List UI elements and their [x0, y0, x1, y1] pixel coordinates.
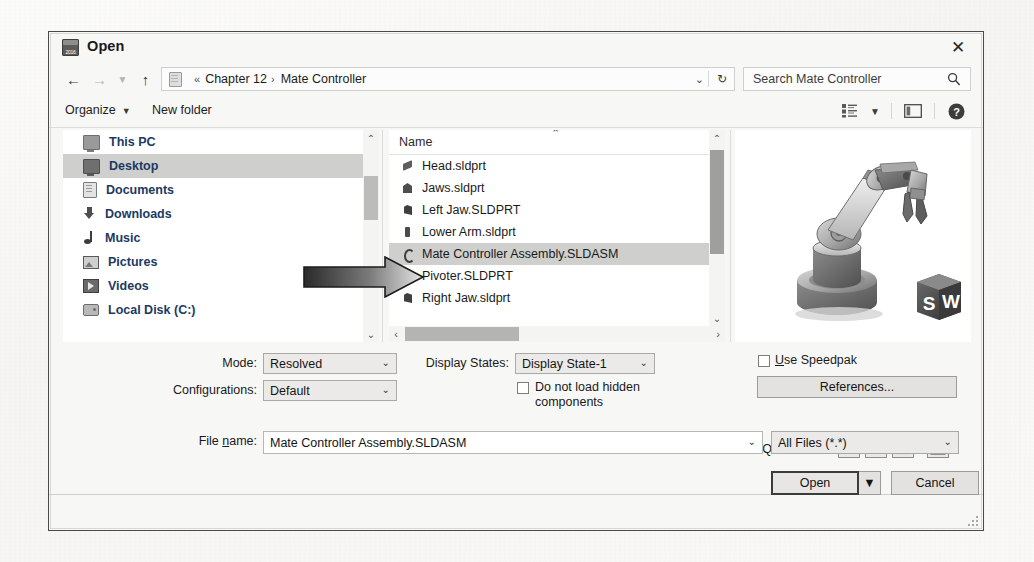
scroll-down-icon[interactable]: ⌄ [709, 310, 725, 326]
sidebar-item-label: Documents [106, 183, 174, 197]
table-row[interactable]: Right Jaw.sldprt [389, 287, 709, 309]
display-states-value: Display State-1 [522, 357, 607, 371]
sidebar-item-downloads[interactable]: Downloads [63, 202, 363, 226]
configurations-label: Configurations: [141, 383, 257, 397]
navigation-pane[interactable]: This PCDesktopDocumentsDownloadsMusicPic… [63, 130, 363, 342]
open-file-dialog: 2016 Open ✕ ← → ▼ ↑ « Chapter 12 › Mate … [48, 31, 984, 531]
arrow-right-icon[interactable]: → [89, 69, 110, 90]
this-pc-icon [83, 135, 100, 150]
scroll-left-icon[interactable]: ‹ [389, 326, 403, 342]
breadcrumb-item-1[interactable]: Mate Controller [281, 72, 366, 86]
open-split-dropdown[interactable]: ▼ [859, 471, 881, 495]
file-list-horizontal-scrollbar[interactable]: ‹ › [389, 326, 725, 342]
column-header-label: Name [399, 135, 432, 149]
do-not-load-hidden-checkbox[interactable] [517, 382, 529, 394]
footer-area: File name: Mate Controller Assembly.SLDA… [49, 468, 983, 530]
display-states-select[interactable]: Display State-1 ⌄ [515, 353, 655, 374]
references-button[interactable]: References... [757, 376, 957, 398]
sidebar-item-this-pc[interactable]: This PC [63, 130, 363, 154]
sort-ascending-icon: ⌃ [551, 130, 560, 140]
file-name-cell: Head.sldprt [422, 159, 486, 173]
sw-part-icon [401, 203, 414, 217]
sw-part-icon [401, 181, 414, 195]
table-row[interactable]: Mate Controller Assembly.SLDASM [389, 243, 709, 265]
table-row[interactable]: Lower Arm.sldprt [389, 221, 709, 243]
chevron-down-icon: ⌄ [944, 436, 952, 447]
view-chevron-down-icon[interactable]: ▼ [865, 100, 885, 122]
close-icon[interactable]: ✕ [941, 36, 975, 58]
table-row[interactable]: Head.sldprt [389, 155, 709, 177]
file-name-label: File name: [159, 434, 257, 448]
organize-label: Organize [65, 103, 116, 117]
file-list-pane[interactable]: Name ⌃ Head.sldprtJaws.sldprtLeft Jaw.SL… [389, 130, 709, 342]
resize-grip-icon[interactable] [968, 516, 978, 526]
help-icon[interactable]: ? [941, 100, 971, 122]
file-type-select[interactable]: All Files (*.*) ⌄ [771, 431, 959, 454]
scroll-up-icon[interactable]: ⌃ [363, 130, 379, 146]
arrow-up-icon[interactable]: ↑ [135, 69, 156, 90]
breadcrumb[interactable]: « Chapter 12 › Mate Controller ⌄ ↻ [161, 67, 735, 91]
arrow-left-icon[interactable]: ← [63, 69, 84, 90]
downloads-icon [83, 207, 96, 221]
solidworks-cube-badge: S W [917, 274, 961, 320]
table-row[interactable]: Pivoter.SLDPRT [389, 265, 709, 287]
column-header-name[interactable]: Name ⌃ [389, 130, 709, 155]
documents-icon [83, 182, 97, 198]
pictures-icon [83, 256, 99, 269]
refresh-icon[interactable]: ↻ [717, 72, 727, 86]
file-name-cell: Lower Arm.sldprt [422, 225, 516, 239]
breadcrumb-item-0[interactable]: Chapter 12 [205, 72, 267, 86]
file-name-cell: Left Jaw.SLDPRT [422, 203, 520, 217]
file-name-value: Mate Controller Assembly.SLDASM [270, 436, 466, 450]
sidebar-item-music[interactable]: Music [63, 226, 363, 250]
options-area: Mode: Resolved ⌄ Configurations: Default… [49, 350, 983, 480]
table-row[interactable]: Left Jaw.SLDPRT [389, 199, 709, 221]
scroll-down-icon[interactable]: ⌄ [363, 326, 379, 342]
file-rows-container: Head.sldprtJaws.sldprtLeft Jaw.SLDPRTLow… [389, 155, 709, 309]
videos-icon [83, 279, 99, 293]
preview-pane: S W [735, 130, 971, 342]
file-name-input[interactable]: Mate Controller Assembly.SLDASM ⌄ [263, 431, 763, 454]
navigation-pane-scrollbar[interactable]: ⌃ ⌄ [363, 130, 379, 342]
organize-button[interactable]: Organize▼ [65, 103, 131, 117]
icon-year-label: 2016 [62, 49, 79, 55]
svg-text:W: W [942, 291, 960, 312]
mode-label: Mode: [159, 356, 257, 370]
scrollbar-thumb[interactable] [405, 327, 519, 341]
configurations-select[interactable]: Default ⌄ [263, 380, 397, 401]
page-title: Open [87, 38, 124, 54]
sw-part-icon [401, 225, 414, 239]
breadcrumb-separator: › [271, 73, 275, 85]
file-list-vertical-scrollbar[interactable]: ⌃ ⌄ [709, 130, 725, 326]
chevron-down-icon[interactable]: ⌄ [748, 436, 756, 447]
file-name-cell: Pivoter.SLDPRT [422, 269, 513, 283]
preview-pane-icon[interactable] [898, 100, 928, 122]
cancel-button[interactable]: Cancel [891, 471, 979, 495]
scrollbar-thumb[interactable] [710, 150, 724, 254]
divider [891, 103, 892, 119]
divider [934, 103, 935, 119]
view-list-icon[interactable] [835, 100, 865, 122]
sidebar-item-label: Desktop [109, 159, 158, 173]
sidebar-item-local-disk-c[interactable]: Local Disk (C:) [63, 298, 363, 322]
search-input[interactable]: Search Mate Controller [743, 67, 971, 91]
music-icon [83, 231, 96, 245]
use-speedpak-checkbox[interactable] [758, 355, 770, 367]
table-row[interactable]: Jaws.sldprt [389, 177, 709, 199]
scroll-right-icon[interactable]: › [711, 326, 725, 342]
chevron-down-icon[interactable]: ⌄ [695, 73, 704, 86]
open-button[interactable]: Open [771, 471, 859, 495]
mode-select[interactable]: Resolved ⌄ [263, 353, 397, 374]
scroll-up-icon[interactable]: ⌃ [709, 130, 725, 146]
sidebar-item-label: Downloads [105, 207, 172, 221]
new-folder-button[interactable]: New folder [152, 103, 212, 117]
panes-area: This PCDesktopDocumentsDownloadsMusicPic… [49, 128, 983, 350]
sidebar-item-desktop[interactable]: Desktop [63, 154, 363, 178]
sidebar-item-documents[interactable]: Documents [63, 178, 363, 202]
scrollbar-thumb[interactable] [364, 176, 378, 220]
search-input-value: Search Mate Controller [753, 72, 882, 86]
pane-splitter[interactable] [730, 130, 731, 342]
search-icon [947, 72, 961, 86]
chevron-down-icon[interactable]: ▼ [112, 69, 133, 90]
pane-splitter[interactable] [382, 130, 383, 342]
